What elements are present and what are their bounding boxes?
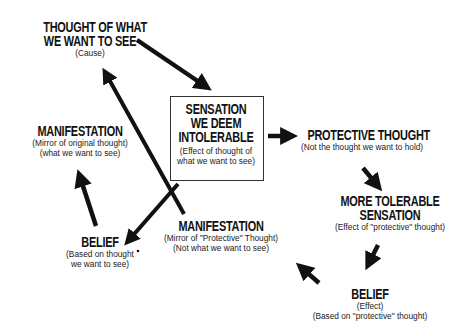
node-thought-cause: THOUGHT OF WHAT WE WANT TO SEE (Cause) — [30, 20, 150, 58]
arrow-protective-to-tolerable — [363, 168, 377, 185]
node-subtitle: we want to see) — [55, 259, 145, 269]
node-sensation-intolerable: SENSATION WE DEEM INTOLERABLE (Effect of… — [166, 102, 266, 166]
node-manifestation-original: MANIFESTATION (Mirror of original though… — [15, 124, 145, 158]
node-subtitle: (Based on thought — [55, 249, 145, 259]
node-title: THOUGHT OF WHAT — [43, 20, 137, 34]
node-title: INTOLERABLE — [177, 130, 255, 144]
node-title: BELIEF — [315, 287, 424, 301]
node-subtitle: (Effect of "protective" thought) — [322, 222, 458, 232]
arrow-tolerable-to-belief — [369, 245, 378, 263]
node-title: MORE TOLERABLE — [337, 194, 443, 208]
node-subtitle: (Effect) — [300, 301, 440, 311]
node-belief-protective: BELIEF (Effect) (Based on "protective" t… — [300, 287, 440, 321]
node-title: SENSATION — [337, 208, 443, 222]
node-subtitle: (Mirror of original thought) — [15, 138, 145, 148]
node-subtitle: (Cause) — [30, 48, 150, 58]
node-title: MANIFESTATION — [29, 124, 130, 138]
node-subtitle: (Not the thought we want to hold) — [292, 142, 432, 152]
node-subtitle: (Not what we want to see) — [156, 243, 286, 253]
node-protective-thought: PROTECTIVE THOUGHT (Not the thought we w… — [292, 128, 432, 152]
node-title: BELIEF — [65, 235, 135, 249]
node-more-tolerable: MORE TOLERABLE SENSATION (Effect of "pro… — [322, 194, 458, 232]
node-title: SENSATION — [177, 102, 255, 116]
node-subtitle: what we want to see) — [166, 156, 266, 166]
node-subtitle: (Based on "protective" thought) — [300, 311, 440, 321]
node-subtitle: (Mirror of "Protective" Thought) — [156, 233, 286, 243]
node-title: WE DEEM — [177, 116, 255, 130]
node-subtitle: (what we want to see) — [15, 148, 145, 158]
node-subtitle: (Effect of thought of — [166, 146, 266, 156]
node-title: WE WANT TO SEE — [43, 34, 137, 48]
diagram-canvas: THOUGHT OF WHAT WE WANT TO SEE (Cause) S… — [0, 0, 460, 335]
arrow-belief-to-manifestation — [302, 268, 319, 283]
node-manifestation-protective: MANIFESTATION (Mirror of "Protective" Th… — [156, 219, 286, 253]
node-title: PROTECTIVE THOUGHT — [307, 128, 416, 142]
node-belief-wanted: BELIEF (Based on thought we want to see) — [55, 235, 145, 269]
arrow-belief-to-original-manifestation — [80, 177, 96, 226]
node-title: MANIFESTATION — [170, 219, 271, 233]
